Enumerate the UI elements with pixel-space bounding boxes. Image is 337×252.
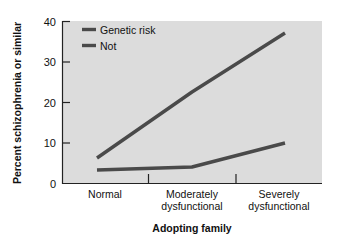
x-category-label-severely-line2: dysfunctional: [248, 200, 309, 212]
figure-container: 40 30 20 10 0 Genetic risk Not Normal Mo…: [0, 0, 337, 252]
x-category-label-moderately-line2: dysfunctional: [161, 200, 222, 212]
legend-label-not: Not: [100, 40, 116, 52]
y-tick-label: 30: [44, 56, 56, 68]
x-axis-title: Adopting family: [152, 222, 231, 234]
y-tick-label: 10: [44, 137, 56, 149]
x-category-label-severely-line1: Severely: [259, 188, 301, 200]
x-category-label-normal: Normal: [88, 188, 122, 200]
line-chart: 40 30 20 10 0 Genetic risk Not Normal Mo…: [0, 0, 337, 252]
y-axis-tick-labels: 40 30 20 10 0: [44, 16, 56, 190]
y-tick-label: 0: [50, 178, 56, 190]
y-axis-title: Percent schizophrenia or similar: [11, 22, 23, 184]
x-category-label-moderately-line1: Moderately: [166, 188, 219, 200]
y-tick-label: 40: [44, 16, 56, 28]
x-axis-category-labels: Normal Moderately dysfunctional Severely…: [88, 188, 310, 212]
y-tick-label: 20: [44, 97, 56, 109]
legend-label-genetic-risk: Genetic risk: [100, 24, 156, 36]
